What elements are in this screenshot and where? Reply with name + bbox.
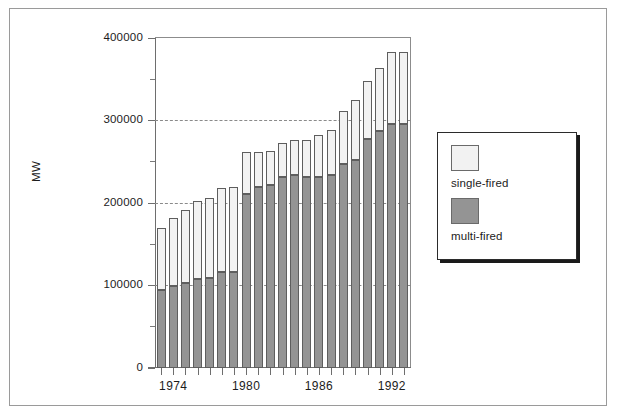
x-tick-1980 <box>246 368 247 375</box>
bar-segment-multi-fired-1976 <box>193 279 202 368</box>
y-tick-100000 <box>148 285 155 286</box>
x-tick-1973 <box>161 368 162 375</box>
bar-segment-multi-fired-1986 <box>314 177 323 368</box>
x-tick-1977 <box>210 368 211 375</box>
bar-1978 <box>217 38 226 368</box>
bar-1992 <box>387 38 396 368</box>
bar-segment-single-fired-1977 <box>205 198 214 278</box>
x-tick-1974 <box>173 368 174 375</box>
bar-1984 <box>290 38 299 368</box>
y-axis-label-200000: 200000 <box>103 196 143 208</box>
y-axis-label-100000: 100000 <box>103 278 143 290</box>
bar-segment-single-fired-1987 <box>327 130 336 175</box>
bar-segment-single-fired-1974 <box>169 218 178 286</box>
x-tick-1979 <box>234 368 235 375</box>
bar-segment-multi-fired-1991 <box>375 131 384 368</box>
bar-segment-multi-fired-1979 <box>229 272 238 368</box>
bar-1989 <box>351 38 360 368</box>
bar-segment-multi-fired-1981 <box>254 187 263 368</box>
bar-segment-single-fired-1993 <box>399 52 408 124</box>
x-tick-1981 <box>258 368 259 375</box>
bar-segment-multi-fired-1980 <box>242 194 251 368</box>
bar-segment-single-fired-1992 <box>387 52 396 124</box>
bar-1975 <box>181 38 190 368</box>
x-tick-1978 <box>222 368 223 375</box>
bar-segment-single-fired-1982 <box>266 151 275 185</box>
y-axis-title: MW <box>30 161 42 182</box>
bar-1990 <box>363 38 372 368</box>
bar-segment-multi-fired-1973 <box>157 290 166 368</box>
x-tick-1984 <box>295 368 296 375</box>
bar-1977 <box>205 38 214 368</box>
x-tick-1983 <box>283 368 284 375</box>
bar-1988 <box>339 38 348 368</box>
x-tick-1987 <box>331 368 332 375</box>
x-tick-1976 <box>198 368 199 375</box>
x-tick-1989 <box>355 368 356 375</box>
bar-1976 <box>193 38 202 368</box>
bar-1987 <box>327 38 336 368</box>
bar-1982 <box>266 38 275 368</box>
y-axis-labels: 0100000200000300000400000 <box>55 0 143 416</box>
bar-segment-multi-fired-1990 <box>363 139 372 368</box>
y-axis-label-400000: 400000 <box>103 31 143 43</box>
x-axis-label-1980: 1980 <box>232 379 260 393</box>
legend-swatch-single-fired <box>451 145 479 171</box>
bar-segment-single-fired-1973 <box>157 228 166 291</box>
bar-segment-multi-fired-1978 <box>217 272 226 368</box>
bar-segment-multi-fired-1983 <box>278 177 287 368</box>
x-axis-label-1974: 1974 <box>159 379 187 393</box>
bar-segment-multi-fired-1992 <box>387 124 396 368</box>
x-tick-1982 <box>270 368 271 375</box>
bar-1983 <box>278 38 287 368</box>
legend-label-multi-fired: multi-fired <box>451 230 503 242</box>
x-tick-1986 <box>319 368 320 375</box>
y-tick-0 <box>148 368 155 369</box>
bar-segment-single-fired-1986 <box>314 135 323 176</box>
bar-segment-single-fired-1984 <box>290 140 299 175</box>
x-tick-1985 <box>307 368 308 375</box>
plot-area <box>155 37 411 368</box>
bar-segment-single-fired-1991 <box>375 68 384 132</box>
x-axis-label-1986: 1986 <box>305 379 333 393</box>
y-tick-200000 <box>148 203 155 204</box>
y-axis-label-300000: 300000 <box>103 113 143 125</box>
bar-segment-single-fired-1983 <box>278 143 287 177</box>
bar-segment-single-fired-1978 <box>217 188 226 272</box>
bar-1979 <box>229 38 238 368</box>
bar-segment-multi-fired-1989 <box>351 160 360 368</box>
bar-1993 <box>399 38 408 368</box>
bar-1974 <box>169 38 178 368</box>
bar-segment-multi-fired-1977 <box>205 278 214 368</box>
bar-segment-multi-fired-1987 <box>327 175 336 368</box>
y-tick-400000 <box>148 38 155 39</box>
bar-1986 <box>314 38 323 368</box>
bar-segment-multi-fired-1993 <box>399 124 408 368</box>
bar-segment-multi-fired-1984 <box>290 175 299 368</box>
x-axis-label-1992: 1992 <box>378 379 406 393</box>
bar-1980 <box>242 38 251 368</box>
legend-box: single-fired multi-fired <box>437 132 577 260</box>
x-tick-1990 <box>368 368 369 375</box>
bar-segment-multi-fired-1985 <box>302 177 311 368</box>
x-tick-1991 <box>380 368 381 375</box>
bar-segment-multi-fired-1988 <box>339 164 348 368</box>
bar-segment-single-fired-1975 <box>181 210 190 283</box>
bar-segment-multi-fired-1974 <box>169 286 178 368</box>
x-tick-1992 <box>392 368 393 375</box>
bar-segment-single-fired-1981 <box>254 152 263 187</box>
x-tick-1988 <box>343 368 344 375</box>
bar-segment-multi-fired-1982 <box>266 185 275 368</box>
legend-label-single-fired: single-fired <box>451 177 508 189</box>
chart-screenshot: MW 0100000200000300000400000 19741980198… <box>0 0 617 416</box>
bar-segment-single-fired-1988 <box>339 111 348 165</box>
bar-1981 <box>254 38 263 368</box>
y-tick-300000 <box>148 120 155 121</box>
x-tick-1975 <box>185 368 186 375</box>
bar-1973 <box>157 38 166 368</box>
bar-segment-single-fired-1989 <box>351 100 360 160</box>
bar-1991 <box>375 38 384 368</box>
legend-swatch-multi-fired <box>451 198 479 224</box>
bar-segment-single-fired-1985 <box>302 140 311 176</box>
y-axis-label-0: 0 <box>136 361 143 373</box>
